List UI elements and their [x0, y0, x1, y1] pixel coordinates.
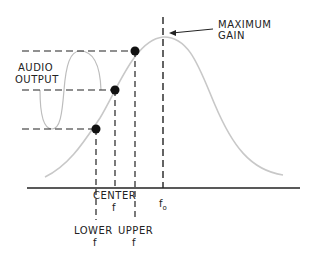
upper-f-label: f	[132, 238, 136, 248]
center-label: CENTER	[93, 190, 136, 201]
arrowhead-icon	[169, 30, 176, 36]
center-f-label: f	[112, 203, 116, 213]
lower-point	[92, 125, 101, 134]
upper-point	[131, 47, 140, 56]
audio-output-label-line1: AUDIO	[18, 62, 53, 73]
audio-output-label-line2: OUTPUT	[15, 74, 59, 85]
f0-subscript: o	[163, 204, 167, 212]
center-point	[111, 86, 120, 95]
upper-label: UPPER	[118, 225, 153, 236]
max-gain-label-line2: GAIN	[218, 30, 245, 41]
lower-label: LOWER	[74, 225, 113, 236]
max-gain-arrow	[172, 29, 213, 33]
f0-label: fo	[159, 199, 167, 213]
max-gain-label-line1: MAXIMUM	[218, 19, 271, 30]
gain-curve-diagram	[0, 0, 323, 256]
gain-curve	[45, 37, 283, 177]
lower-f-label: f	[93, 238, 97, 248]
